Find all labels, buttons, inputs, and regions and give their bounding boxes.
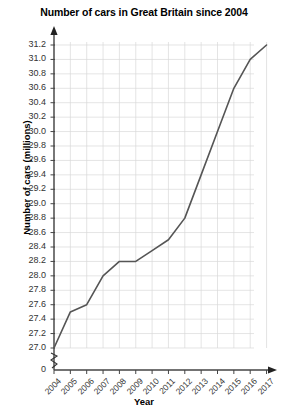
data-series-line (54, 45, 267, 348)
y-tick-label: 28.4 (12, 242, 46, 251)
y-tick-label: 28.2 (12, 256, 46, 265)
y-tick-label: 27.4 (12, 314, 46, 323)
y-tick-label: 29.2 (12, 184, 46, 193)
y-tick-label: 28.6 (12, 228, 46, 237)
y-tick-label: 28.8 (12, 213, 46, 222)
y-tick-label: 27.8 (12, 285, 46, 294)
y-tick-label: 30.0 (12, 127, 46, 136)
y-tick-label: 29.6 (12, 155, 46, 164)
y-tick-label: 29.0 (12, 199, 46, 208)
y-tick-label: 30.2 (12, 112, 46, 121)
y-tick-label: 31.2 (12, 40, 46, 49)
y-tick-label: 27.0 (12, 343, 46, 352)
y-tick-label: 27.6 (12, 300, 46, 309)
y-tick-label: 30.8 (12, 69, 46, 78)
y-tick-label: 27.2 (12, 329, 46, 338)
y-tick-label: 29.4 (12, 170, 46, 179)
y-tick-label: 28.0 (12, 271, 46, 280)
y-tick-label: 31.0 (12, 54, 46, 63)
axis-lines (50, 26, 277, 374)
chart-container: Number of cars in Great Britain since 20… (0, 0, 288, 417)
y-tick-label: 30.4 (12, 98, 46, 107)
y-origin-label: 0 (12, 365, 46, 374)
y-tick-label: 30.6 (12, 83, 46, 92)
y-tick-label: 29.8 (12, 141, 46, 150)
